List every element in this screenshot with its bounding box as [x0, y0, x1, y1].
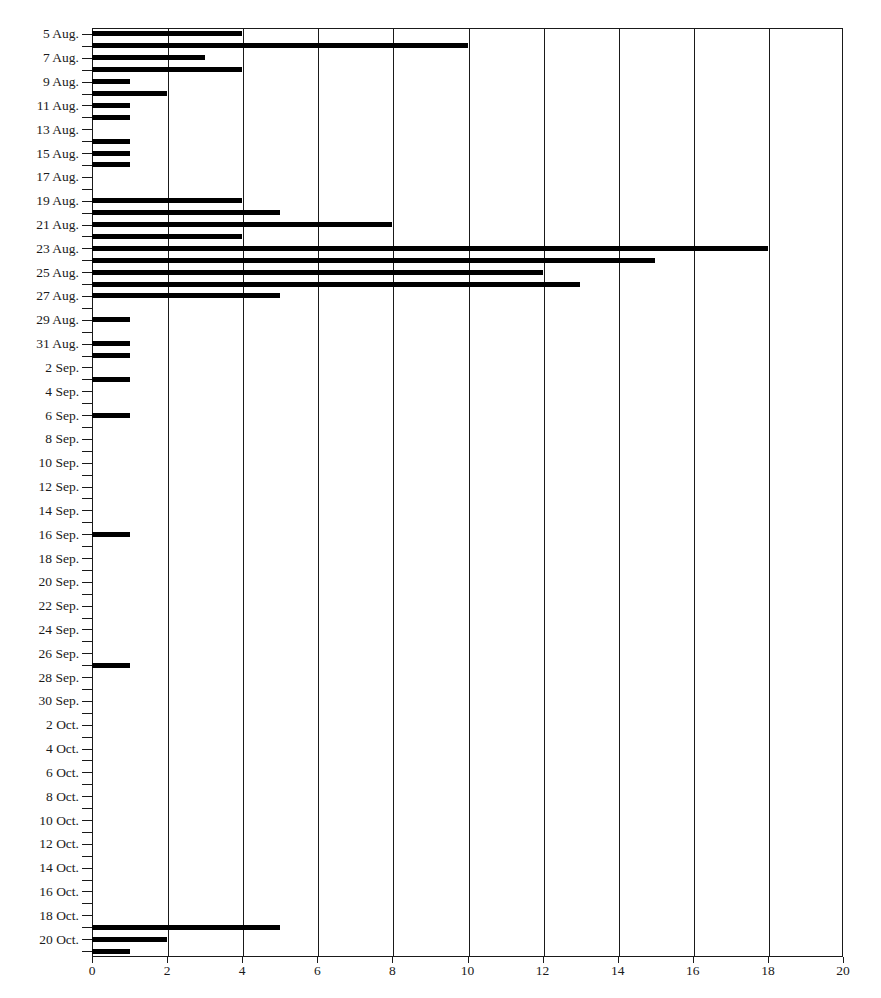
- x-axis: 02468101214161820: [0, 0, 881, 998]
- x-axis-label: 12: [523, 964, 563, 978]
- x-axis-label: 14: [598, 964, 638, 978]
- x-axis-label: 18: [748, 964, 788, 978]
- bar-chart: 5 Aug.7 Aug.9 Aug.11 Aug.13 Aug.15 Aug.1…: [0, 0, 881, 998]
- x-axis-label: 8: [372, 964, 412, 978]
- x-axis-label: 6: [297, 964, 337, 978]
- x-axis-label: 0: [72, 964, 112, 978]
- x-axis-label: 4: [222, 964, 262, 978]
- x-axis-label: 10: [448, 964, 488, 978]
- x-axis-label: 20: [823, 964, 863, 978]
- x-axis-label: 16: [673, 964, 713, 978]
- x-axis-label: 2: [147, 964, 187, 978]
